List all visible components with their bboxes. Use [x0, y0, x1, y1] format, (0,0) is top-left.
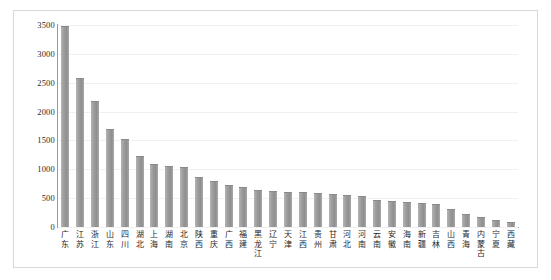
x-axis-tick-label: 吉林 — [429, 230, 443, 249]
x-axis-tick-label: 天津 — [281, 230, 295, 249]
y-axis-tick-label: 3000 — [14, 50, 55, 59]
x-axis-tick-label: 江西 — [296, 230, 310, 249]
bar — [136, 156, 144, 227]
x-axis-tick-label: 湖南 — [162, 230, 176, 249]
bar — [447, 209, 455, 227]
x-axis-tick-label: 青海 — [459, 230, 473, 249]
x-axis-tick-label: 内蒙古 — [474, 230, 488, 259]
y-axis-tick-label: 2500 — [14, 78, 55, 87]
bar — [418, 203, 426, 227]
x-axis-tick-label: 海南 — [400, 230, 414, 249]
x-axis-tick-label: 四川 — [118, 230, 132, 249]
bar — [61, 26, 69, 227]
x-axis-tick-label: 贵州 — [311, 230, 325, 249]
bar — [343, 195, 351, 227]
bar — [507, 222, 515, 227]
x-axis-tick-label: 重庆 — [207, 230, 221, 249]
x-axis-tick-label: 福建 — [236, 230, 250, 249]
y-axis-tick-label: 2000 — [14, 107, 55, 116]
bar — [225, 185, 233, 227]
x-axis-tick-label: 黑龙江 — [251, 230, 265, 259]
y-axis-tick-label: 0 — [14, 223, 55, 232]
bar — [329, 194, 337, 227]
x-axis-tick-label: 甘肃 — [326, 230, 340, 249]
x-axis-tick-label: 浙江 — [88, 230, 102, 249]
bar — [284, 192, 292, 227]
bar — [299, 192, 307, 227]
x-axis-tick-label: 江苏 — [73, 230, 87, 249]
x-axis-tick-label: 西藏 — [504, 230, 518, 249]
bar — [210, 181, 218, 227]
bar — [254, 190, 262, 227]
bar-chart-figure: 0500100015002000250030003500 广东江苏浙江山东四川湖… — [13, 10, 538, 268]
y-axis-tick-label: 1500 — [14, 136, 55, 145]
bar — [373, 200, 381, 227]
gridline — [58, 227, 518, 228]
x-axis-tick-label: 云南 — [370, 230, 384, 249]
bar — [462, 214, 470, 227]
x-axis-tick-label: 陕西 — [192, 230, 206, 249]
x-axis-tick-label: 宁夏 — [489, 230, 503, 249]
bar — [76, 78, 84, 227]
x-axis-tick-label: 上海 — [147, 230, 161, 249]
y-axis-tick-label: 1000 — [14, 165, 55, 174]
bar — [121, 139, 129, 227]
y-axis-tick-labels: 0500100015002000250030003500 — [14, 11, 55, 243]
bar — [432, 204, 440, 227]
x-axis-tick-label: 广西 — [222, 230, 236, 249]
bar — [314, 193, 322, 227]
y-axis-tick-label: 500 — [14, 194, 55, 203]
bar — [195, 177, 203, 227]
bar-series — [58, 25, 518, 227]
x-axis-tick-label: 山西 — [444, 230, 458, 249]
x-axis-tick-labels: 广东江苏浙江山东四川湖北上海湖南北京陕西重庆广西福建黑龙江辽宁天津江西贵州甘肃河… — [58, 230, 518, 268]
bar — [492, 220, 500, 227]
bar — [180, 167, 188, 227]
x-axis-tick-label: 广东 — [58, 230, 72, 249]
bar — [165, 166, 173, 227]
x-axis-tick-label: 辽宁 — [266, 230, 280, 249]
x-axis-tick-label: 河北 — [340, 230, 354, 249]
bar — [403, 202, 411, 227]
bar — [269, 191, 277, 227]
bar — [91, 101, 99, 227]
bar — [106, 129, 114, 227]
bar — [150, 164, 158, 227]
x-axis-tick-label: 湖北 — [133, 230, 147, 249]
bar — [477, 217, 485, 227]
bar — [239, 187, 247, 227]
bar — [358, 196, 366, 227]
x-axis-tick-label: 河南 — [355, 230, 369, 249]
x-axis-tick-label: 山东 — [103, 230, 117, 249]
y-axis-tick-label: 3500 — [14, 21, 55, 30]
bar — [388, 201, 396, 227]
x-axis-tick-label: 北京 — [177, 230, 191, 249]
x-axis-tick-label: 安徽 — [385, 230, 399, 249]
x-axis-tick-label: 新疆 — [415, 230, 429, 249]
